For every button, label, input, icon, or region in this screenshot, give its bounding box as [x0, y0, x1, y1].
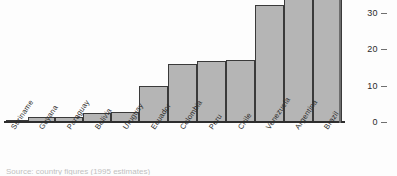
bar-chile [226, 60, 255, 122]
value-axis-line [339, 0, 341, 123]
caption-strip: Source: country figures (1995 estimates) [6, 168, 206, 175]
tick-mark-10 [381, 86, 387, 87]
tick-label-10: 10 [356, 81, 378, 91]
caption-text: Source: country figures (1995 estimates) [6, 168, 206, 175]
tick-label-0: 0 [356, 117, 378, 127]
tick-mark-0 [381, 122, 387, 123]
plot-area: 30 20 10 0 Suriname Guyana Paraguay Boli… [0, 0, 397, 176]
bar-chart-figure: 30 20 10 0 Suriname Guyana Paraguay Boli… [0, 0, 397, 176]
category-label-suriname: Suriname [9, 98, 35, 131]
tick-mark-30 [381, 13, 387, 14]
bar-peru [197, 61, 226, 122]
tick-mark-20 [381, 49, 387, 50]
tick-label-30: 30 [356, 8, 378, 18]
tick-label-20: 20 [356, 44, 378, 54]
